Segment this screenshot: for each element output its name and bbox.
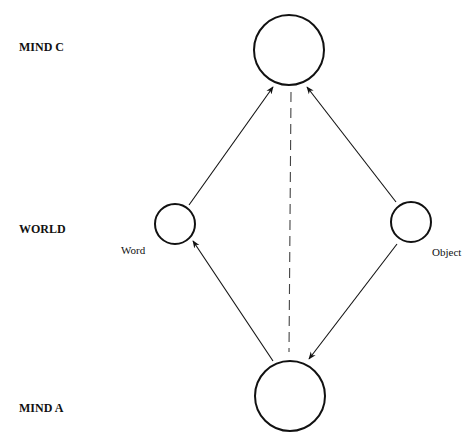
edge-object-to-mind-a <box>309 244 397 359</box>
row-label-mind-a: MIND A <box>19 401 63 416</box>
edge-mind-a-to-word <box>193 241 273 361</box>
word-node <box>155 204 195 244</box>
diagram-canvas: MIND C WORLD MIND A Word Object <box>0 0 475 446</box>
edge-word-to-mind-c <box>189 87 273 205</box>
mind-a-node <box>255 361 325 431</box>
edge-object-to-mind-c <box>307 87 396 202</box>
mind-c-node <box>254 15 324 85</box>
row-label-mind-c: MIND C <box>19 40 64 55</box>
diagram-graphics <box>0 0 475 446</box>
object-node <box>391 202 431 242</box>
node-label-word: Word <box>121 244 145 256</box>
node-label-object: Object <box>432 246 461 258</box>
row-label-world: WORLD <box>19 222 66 237</box>
edge-mind-c-mind-a-dashed <box>289 92 291 352</box>
